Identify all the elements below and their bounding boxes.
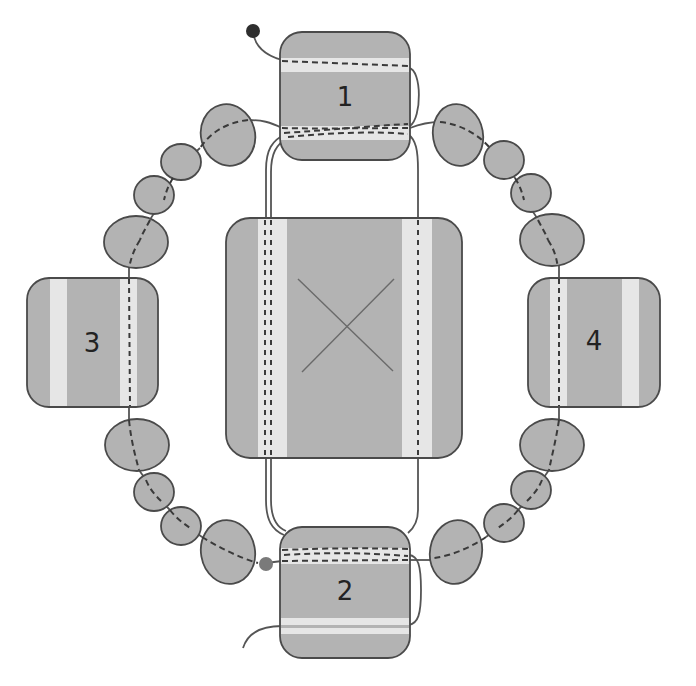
tile-label: 2 bbox=[337, 576, 354, 606]
stripe bbox=[281, 618, 409, 625]
bead-small bbox=[161, 144, 201, 180]
tile-2: 2 bbox=[280, 527, 410, 658]
tile-label: 1 bbox=[337, 82, 354, 112]
stripe bbox=[50, 279, 67, 406]
thread-end-dot-icon bbox=[259, 557, 273, 571]
stripe bbox=[258, 219, 287, 457]
tile-4: 4 bbox=[528, 278, 660, 407]
diagram-canvas: 1 2 3 4 bbox=[0, 0, 696, 686]
stripe bbox=[281, 548, 409, 564]
bead-large bbox=[196, 516, 260, 588]
bead-small bbox=[484, 504, 524, 542]
tile-center bbox=[226, 218, 462, 458]
bead-large bbox=[194, 98, 262, 172]
stripe bbox=[622, 279, 639, 406]
bead-large bbox=[104, 216, 168, 268]
tile-3: 3 bbox=[27, 278, 158, 407]
tile-label: 4 bbox=[586, 326, 603, 356]
tile-1: 1 bbox=[280, 32, 410, 160]
stripe bbox=[281, 628, 409, 634]
tile-label: 3 bbox=[84, 328, 101, 358]
bead-small bbox=[511, 471, 551, 509]
thread-left-vertical-d bbox=[271, 458, 286, 531]
bead-large bbox=[520, 214, 584, 266]
thread-start-dot-icon bbox=[246, 24, 260, 38]
bead-large bbox=[520, 419, 584, 471]
thread-right-vertical-top bbox=[408, 134, 418, 218]
thread-left-vertical-c bbox=[266, 458, 284, 535]
bead-large bbox=[428, 100, 488, 170]
stripe bbox=[281, 58, 409, 72]
bead-small bbox=[161, 507, 201, 545]
bead-small bbox=[484, 141, 524, 179]
bead-small bbox=[134, 176, 174, 214]
thread-right-vertical-bottom bbox=[408, 458, 418, 533]
bead-thread-diagram: 1 2 3 4 bbox=[0, 0, 696, 686]
